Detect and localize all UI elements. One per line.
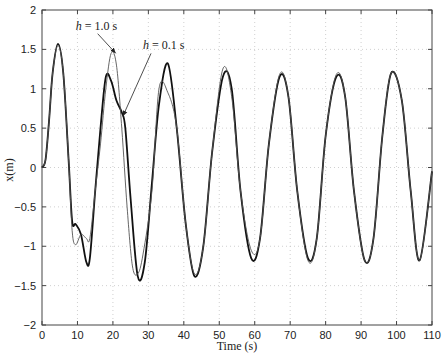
y-tick-label: 0	[30, 162, 36, 174]
y-axis-title: x(m)	[2, 158, 16, 181]
x-tick-label: 0	[39, 329, 45, 341]
y-tick-label: −0.5	[14, 201, 36, 213]
y-tick-label: 1.5	[21, 43, 36, 55]
y-tick-label: 2	[30, 4, 36, 16]
grid-lines	[42, 10, 432, 325]
series-h-0-1-s	[42, 44, 432, 281]
x-tick-label: 40	[178, 329, 190, 341]
x-tick-label: 10	[71, 329, 83, 341]
x-axis-title: Time (s)	[217, 339, 258, 353]
annotation-label: h = 0.1 s	[143, 38, 185, 52]
x-tick-label: 110	[423, 329, 441, 341]
annotation-label: h = 1.0 s	[76, 19, 118, 33]
x-tick-label: 20	[107, 329, 119, 341]
y-tick-label: −2	[23, 319, 36, 331]
series-lines	[42, 44, 432, 281]
annotation-arrow	[123, 53, 151, 116]
y-tick-label: −1	[23, 240, 36, 252]
y-tick-label: 1	[30, 83, 36, 95]
y-tick-label: 0.5	[21, 122, 36, 134]
x-tick-label: 80	[320, 329, 332, 341]
y-tick-label: −1.5	[14, 280, 36, 292]
x-tick-label: 100	[387, 329, 405, 341]
x-tick-label: 30	[142, 329, 154, 341]
line-chart: 0102030405060708090100110−2−1.5−1−0.500.…	[0, 0, 446, 358]
annotation-arrow	[98, 34, 116, 54]
x-tick-label: 90	[355, 329, 367, 341]
x-tick-label: 70	[284, 329, 296, 341]
axes: 0102030405060708090100110−2−1.5−1−0.500.…	[14, 4, 440, 341]
